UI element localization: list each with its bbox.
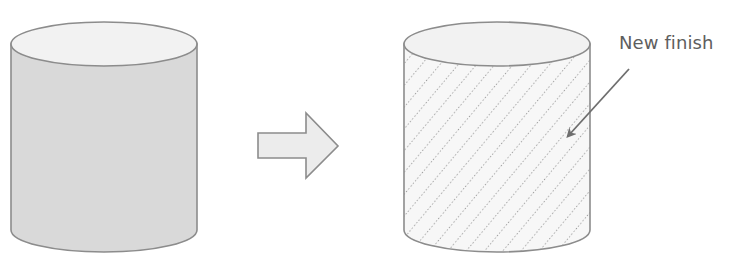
refinished-cylinder (404, 22, 590, 252)
cylinder-top (11, 22, 197, 66)
cylinder-body (11, 44, 197, 252)
cylinder-body-hatched (404, 44, 590, 252)
callout-label: New finish (619, 32, 714, 53)
cylinder-top (404, 22, 590, 66)
transform-arrow-icon (258, 113, 338, 178)
original-cylinder (11, 22, 197, 252)
